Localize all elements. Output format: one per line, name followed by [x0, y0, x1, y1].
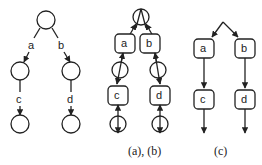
caption-ab: (a), (b) [128, 144, 161, 158]
panel-middle-graph: a b c d (a), (b) [108, 9, 170, 158]
diagram-figure: a b c d a b c d [0, 0, 262, 165]
panel-right-graph: a b c d (c) [194, 22, 255, 158]
edge-label-d: d [67, 93, 73, 105]
node-label-b: b [241, 42, 247, 54]
edge-b-lower [64, 52, 70, 62]
node-label-a: a [121, 37, 128, 49]
edge-root-to-a [212, 22, 223, 37]
edge-root-to-b [223, 22, 238, 37]
caption-c: (c) [214, 144, 227, 158]
edge-label-a: a [28, 39, 35, 51]
edge-b-upper [52, 28, 58, 38]
state-node-after-b [62, 62, 80, 80]
state-node-after-c [11, 115, 29, 133]
state-node-after-d [62, 115, 80, 133]
node-label-d: d [241, 93, 247, 105]
edge-a-upper [34, 28, 40, 38]
state-node-after-a [11, 62, 29, 80]
node-label-a: a [200, 42, 207, 54]
node-label-c: c [200, 93, 206, 105]
root-state-node [37, 11, 55, 29]
edge-a-lower [24, 52, 29, 62]
panel-left-state-graph: a b c d [11, 11, 80, 133]
edge-label-b: b [58, 39, 64, 51]
node-label-d: d [156, 89, 162, 101]
node-label-c: c [114, 89, 120, 101]
edge-label-c: c [16, 93, 22, 105]
node-label-b: b [146, 37, 152, 49]
